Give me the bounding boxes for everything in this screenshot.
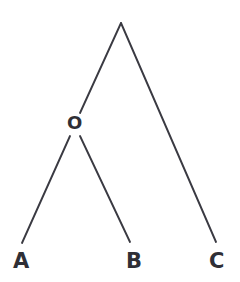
branch-o-to-a [22, 136, 70, 243]
branch-root-to-o [80, 23, 121, 113]
branch-root-to-c [121, 23, 216, 242]
branch-group [22, 23, 216, 243]
tree-branches-svg [0, 0, 240, 282]
tip-label-b: B [126, 251, 142, 272]
tip-label-a: A [13, 251, 29, 272]
tip-label-c: C [209, 251, 224, 272]
tree-diagram-figure: O A B C [0, 0, 240, 282]
node-label-o: O [67, 114, 82, 132]
branch-o-to-b [80, 136, 130, 242]
